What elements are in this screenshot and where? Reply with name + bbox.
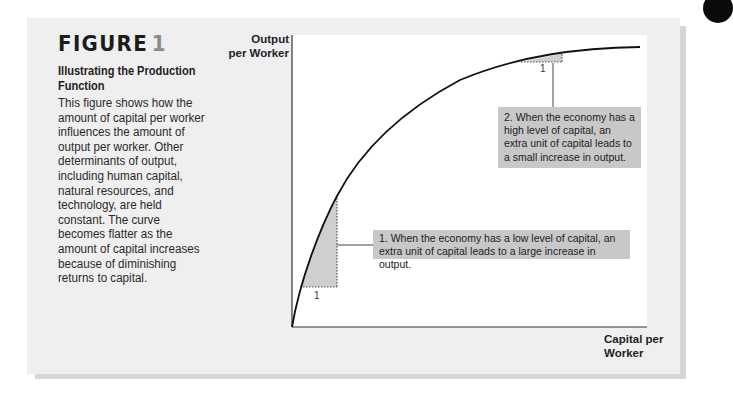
callout-high-capital: 2. When the economy has a high level of …	[498, 107, 641, 168]
y-axis-label: Outputper Worker	[228, 32, 289, 60]
unit-label-high: 1	[540, 63, 546, 74]
production-function-curve	[292, 47, 640, 327]
unit-label-low: 1	[314, 290, 320, 301]
x-axis-label: Capital perWorker	[604, 332, 663, 360]
callout-low-capital: 1. When the economy has a low level of c…	[373, 230, 630, 259]
